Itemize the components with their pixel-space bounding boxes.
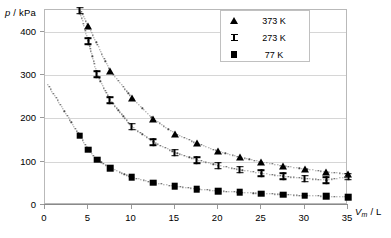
series-line-dot (144, 135, 145, 136)
series-line-dot (312, 170, 313, 171)
series-line-dot (166, 184, 167, 185)
marker-ibeam-icon (171, 149, 178, 157)
marker-ibeam-icon (301, 175, 308, 183)
marker-square-icon (301, 193, 308, 200)
y-tick-label: 100 (2, 155, 36, 166)
series-line-dot (204, 189, 205, 190)
marker-ibeam-icon (236, 166, 243, 174)
series-line-dot (64, 111, 65, 112)
series-line-dot (92, 35, 93, 36)
series-line-dot (168, 129, 169, 130)
marker-square-icon (85, 146, 92, 153)
series-line-dot (205, 146, 206, 147)
marker-square-icon (280, 191, 287, 198)
data-point (345, 173, 352, 181)
data-point (107, 165, 114, 172)
series-line-dot (119, 172, 120, 173)
data-point (236, 166, 243, 174)
series-line-dot (60, 104, 61, 105)
marker-square-icon (236, 189, 243, 196)
series-line-dot (244, 158, 245, 159)
series-line-dot (181, 154, 182, 155)
series-line-dot (331, 179, 332, 180)
legend-item-273-k[interactable]: 273 K (221, 29, 309, 46)
series-line-dot (245, 192, 246, 193)
series-line-dot (165, 147, 166, 148)
series-line-dot (222, 152, 223, 153)
series-line-dot (223, 166, 224, 167)
data-point (171, 149, 178, 157)
series-line-dot (315, 179, 316, 180)
series-line-dot (255, 193, 256, 194)
series-line-dot (269, 193, 270, 194)
data-point (76, 132, 83, 139)
series-line-dot (272, 163, 273, 164)
series-line-dot (318, 170, 319, 171)
x-axis-line (44, 204, 348, 205)
marker-square-icon (323, 193, 330, 200)
x-tick-mark (217, 205, 218, 209)
marker-square-icon (128, 174, 135, 181)
series-line-dot (274, 164, 275, 165)
series-line-dot (145, 180, 146, 181)
series-line-dot (296, 195, 297, 196)
series-line-dot (189, 139, 190, 140)
series-line-dot (179, 154, 180, 155)
series-line-dot (318, 179, 319, 180)
data-point (128, 123, 135, 131)
data-point (150, 138, 157, 146)
series-line-dot (315, 170, 316, 171)
chart-container: p / kPa Vm / L 0100200300400 05101520253… (0, 0, 391, 238)
series-line-dot (184, 155, 185, 156)
series-line-dot (331, 172, 332, 173)
data-point (150, 180, 157, 187)
legend-label: 373 K (247, 16, 309, 26)
marker-triangle-icon (230, 17, 238, 24)
series-line-dot (126, 175, 127, 176)
series-line-dot (69, 120, 70, 121)
series-line-dot (225, 153, 226, 154)
marker-triangle-icon (171, 130, 179, 137)
series-line-dot (339, 196, 340, 197)
legend-item-77-k[interactable]: 77 K (221, 46, 309, 63)
series-line-dot (272, 194, 273, 195)
marker-ibeam-icon (345, 173, 352, 181)
data-point (94, 156, 101, 163)
x-axis-units: / L (368, 206, 382, 217)
series-line-dot (247, 192, 248, 193)
series-line-dot (312, 195, 313, 196)
series-line-dot (135, 129, 136, 130)
marker-ibeam-icon (85, 37, 92, 45)
series-line-dot (136, 178, 137, 179)
series-line-dot (161, 124, 162, 125)
legend-item-373-k[interactable]: 373 K (221, 12, 309, 29)
series-line-dot (94, 39, 95, 40)
data-point (323, 177, 330, 185)
series-line-dot (102, 85, 103, 86)
series-line-dot (209, 190, 210, 191)
series-line-dot (231, 168, 232, 169)
series-line-dot (320, 196, 321, 197)
marker-ibeam-icon (258, 170, 265, 178)
legend-marker (221, 51, 247, 58)
data-point (279, 163, 287, 170)
series-line-dot (159, 123, 160, 124)
marker-ibeam-icon (93, 70, 100, 78)
marker-ibeam-icon (323, 177, 330, 185)
data-point (323, 193, 330, 200)
series-line-dot (255, 172, 256, 173)
series-line-dot (246, 158, 247, 159)
series-line-dot (90, 48, 91, 49)
x-tick-label: 10 (119, 212, 143, 223)
series-line-dot (186, 138, 187, 139)
series-line-dot (251, 159, 252, 160)
series-line-dot (337, 178, 338, 179)
data-point (106, 96, 113, 104)
series-line-dot (185, 187, 186, 188)
series-line-dot (72, 124, 73, 125)
x-tick-mark (304, 205, 305, 209)
series-line-dot (97, 44, 98, 45)
series-line-dot (71, 122, 72, 123)
series-line-dot (288, 176, 289, 177)
series-line-dot (91, 53, 92, 54)
